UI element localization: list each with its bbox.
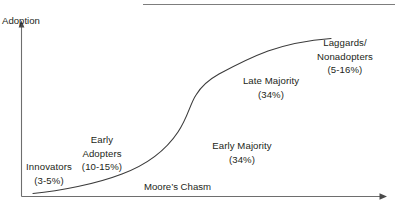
x-axis-arrowhead-icon [380, 193, 388, 200]
segment-label-laggards: Laggards/ Nonadopters (5-16%) [302, 36, 388, 77]
segment-name-laggards-line1: Laggards/ [302, 36, 388, 50]
segment-share-late-majority: (34%) [229, 88, 313, 102]
segment-name-early-adopters-line2: Adopters [68, 147, 136, 161]
y-axis-title: Adoption [2, 15, 40, 27]
moores-chasm-annotation: Moore’s Chasm [144, 181, 211, 193]
segment-label-late-majority: Late Majority (34%) [229, 74, 313, 101]
segment-name-early-adopters-line1: Early [68, 133, 136, 147]
segment-share-innovators: (3-5%) [12, 174, 86, 188]
segment-share-early-adopters: (10-15%) [68, 160, 136, 174]
segment-share-early-majority: (34%) [196, 153, 288, 167]
segment-share-laggards: (5-16%) [302, 63, 388, 77]
adoption-curve-figure: Adoption Innovators (3-5%) Early Adopter… [0, 0, 395, 211]
segment-name-early-majority: Early Majority [196, 139, 288, 153]
segment-label-early-majority: Early Majority (34%) [196, 139, 288, 166]
segment-label-early-adopters: Early Adopters (10-15%) [68, 133, 136, 174]
segment-name-laggards-line2: Nonadopters [302, 50, 388, 64]
segment-name-late-majority: Late Majority [229, 74, 313, 88]
